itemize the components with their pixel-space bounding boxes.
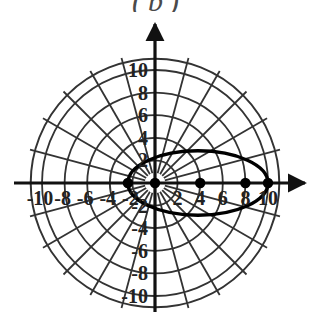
grid-spoke-150deg [43,118,146,178]
x-tick-label-6: 6 [218,187,228,209]
x-tick-label--10: -10 [27,187,54,209]
y-tick-label-2: 2 [138,149,148,171]
y-tick-label-8: 8 [138,82,148,104]
x-tick-label--4: -4 [99,187,116,209]
x-tick-label-2: 2 [173,187,183,209]
y-tick-label--4: -4 [131,217,148,239]
x-tick-label-4: 4 [195,187,205,209]
grid-spoke-30deg [164,118,267,178]
figure-caption: (b) [0,0,317,12]
y-tick-label--8: -8 [131,262,148,284]
y-tick-label-10: 10 [128,59,148,81]
x-tick-label-10: 10 [258,187,278,209]
figure-root: (b) -10-8-6-4-2246810 108642-2-4-6-8-10 [0,0,317,315]
grid-spoke-45deg [162,92,246,176]
y-tick-label--2: -2 [131,195,148,217]
y-tick-label-6: 6 [138,104,148,126]
x-tick-label-8: 8 [240,187,250,209]
x-tick-label--8: -8 [54,187,71,209]
x-tick-label--6: -6 [77,187,94,209]
polar-plot-svg: -10-8-6-4-2246810 108642-2-4-6-8-10 [0,0,317,315]
y-tick-label--6: -6 [131,240,148,262]
marked-point-1 [150,178,160,188]
grid-spoke-135deg [64,92,148,176]
y-tick-label-4: 4 [138,127,148,149]
grid-spoke-300deg [160,192,220,295]
grid-spoke-60deg [160,71,220,174]
y-tick-label--10: -10 [121,285,148,307]
